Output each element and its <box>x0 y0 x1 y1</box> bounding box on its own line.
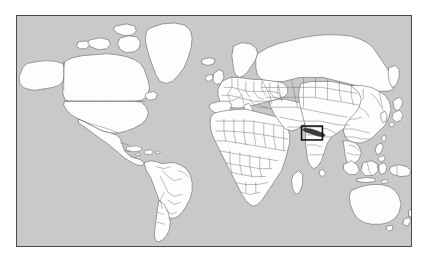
page-root: World map with highlighted region Nepal … <box>0 0 426 262</box>
banks-island <box>77 41 90 49</box>
australia-landmass <box>349 185 401 225</box>
korea-peninsula <box>381 111 387 123</box>
canada-landmass <box>63 54 150 102</box>
java-island <box>357 178 375 183</box>
japan-kyushu <box>389 122 394 127</box>
alaska-landmass <box>19 61 65 91</box>
timor-island <box>381 180 388 184</box>
borneo-island <box>361 161 378 176</box>
world-map-svg <box>17 16 411 246</box>
world-map-figure <box>16 15 412 247</box>
